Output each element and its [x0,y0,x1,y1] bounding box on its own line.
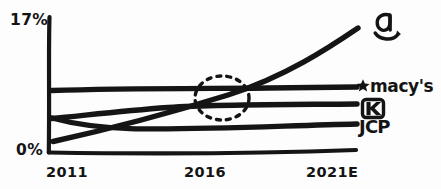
legend-item-macys: macy's [356,76,433,96]
legend-label-jcp: JCP [357,116,390,137]
legend-item-kmart [363,100,384,118]
kmart-k-glyph [367,102,382,115]
y-axis-top-label: 17% [10,11,48,29]
x-axis-tick-2021e: 2021E [306,164,358,180]
hand-drawn-market-share-chart: 17% 0% 2011 2016 2021E macy's JCP [0,0,441,189]
macys-star-icon [356,79,369,91]
series-line-kmart [52,104,357,119]
x-axis-line [49,150,356,153]
legend-label-macys: macy's [370,76,434,96]
y-axis-line [49,17,50,153]
x-axis-tick-2016: 2016 [184,164,226,180]
series-line-jcp [52,118,357,129]
series-line-macys [52,87,357,91]
y-axis-bottom-label: 0% [16,141,43,159]
x-axis-tick-2011: 2011 [46,164,88,180]
amazon-smile-icon [375,14,401,39]
chart-canvas: 17% 0% 2011 2016 2021E macy's JCP [0,0,441,189]
